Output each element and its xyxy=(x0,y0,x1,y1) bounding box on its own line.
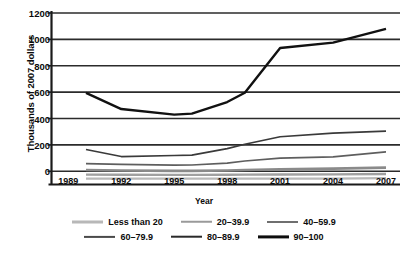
x-tick-label: 2007 xyxy=(376,176,396,186)
legend-label: 90–100 xyxy=(294,232,324,242)
legend-swatch-icon xyxy=(72,217,103,226)
legend-item[interactable]: 60–79.9 xyxy=(84,232,153,242)
x-tick-label: 2001 xyxy=(270,176,290,186)
legend-label: 80–89.9 xyxy=(207,232,240,242)
line-chart: Thousands of 2007 dollars 02004006008001… xyxy=(0,0,408,258)
chart-legend: Less than 2020–39.940–59.960–79.980–89.9… xyxy=(0,214,408,244)
x-tick-label: 1998 xyxy=(217,176,237,186)
legend-label: Less than 20 xyxy=(108,217,163,227)
x-tick-label: 2004 xyxy=(323,176,343,186)
legend-item[interactable]: Less than 20 xyxy=(72,217,163,227)
legend-item[interactable]: 40–59.9 xyxy=(267,217,336,227)
legend-swatch-icon xyxy=(258,232,289,241)
legend-item[interactable]: 20–39.9 xyxy=(181,217,250,227)
legend-item[interactable]: 80–89.9 xyxy=(171,232,240,242)
x-tick-label: 1992 xyxy=(111,176,131,186)
legend-row: Less than 2020–39.940–59.9 xyxy=(0,214,408,229)
legend-swatch-icon xyxy=(181,217,212,226)
legend-label: 60–79.9 xyxy=(120,232,153,242)
legend-label: 20–39.9 xyxy=(217,217,250,227)
x-axis-title: Year xyxy=(0,196,408,206)
legend-swatch-icon xyxy=(171,232,202,241)
legend-swatch-icon xyxy=(84,232,115,241)
x-tick-label: 1989 xyxy=(58,176,78,186)
legend-label: 40–59.9 xyxy=(303,217,336,227)
legend-row: 60–79.980–89.990–100 xyxy=(0,229,408,244)
legend-item[interactable]: 90–100 xyxy=(258,232,324,242)
legend-swatch-icon xyxy=(267,217,298,226)
x-tick-label: 1995 xyxy=(164,176,184,186)
